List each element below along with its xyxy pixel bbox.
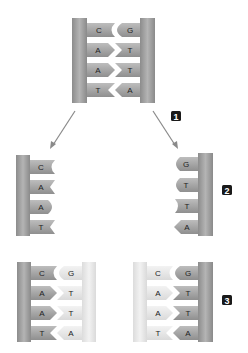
- separated-left-strand: C A A T: [16, 155, 55, 236]
- base-letter: A: [95, 46, 101, 55]
- separated-right-strand: G T T A: [174, 153, 213, 236]
- daughter-right-old-backbone: [198, 262, 213, 342]
- base-letter: G: [183, 160, 189, 169]
- daughter-left-new-backbone: [82, 262, 96, 342]
- svg-text:2: 2: [224, 186, 229, 196]
- base-letter: T: [69, 309, 74, 318]
- base-letter: A: [127, 86, 133, 95]
- base-letter: T: [39, 223, 44, 232]
- base-letter: C: [155, 269, 161, 278]
- base-letter: T: [156, 329, 161, 338]
- base-letter: A: [38, 203, 44, 212]
- daughter-left-old-backbone: [17, 262, 31, 342]
- base-letter: C: [39, 269, 45, 278]
- step-label-1: 1: [171, 111, 181, 122]
- daughter-dna-left: C A A T G T T A: [17, 262, 96, 342]
- dna-replication-diagram: C G A T A T T A 1 C A A T: [0, 0, 248, 353]
- base-A: [87, 43, 115, 57]
- separation-arrows: [50, 111, 178, 149]
- base-letter: T: [96, 86, 101, 95]
- base-letter: T: [128, 66, 133, 75]
- base-letter: T: [69, 289, 74, 298]
- svg-text:1: 1: [173, 112, 178, 122]
- base-letter: A: [38, 183, 44, 192]
- daughter-dna-right: C A A T G T T A: [133, 262, 213, 342]
- separated-left-backbone: [16, 155, 30, 236]
- step-label-2: 2: [222, 185, 232, 196]
- parent-left-backbone: [72, 18, 87, 103]
- base-letter: A: [39, 289, 45, 298]
- base-letter: T: [128, 46, 133, 55]
- base-letter: A: [39, 309, 45, 318]
- base-letter: T: [186, 309, 191, 318]
- parent-dna: C G A T A T T A: [72, 18, 155, 103]
- base-T: [87, 83, 115, 97]
- separated-right-backbone: [198, 153, 213, 236]
- base-letter: C: [96, 26, 102, 35]
- base-letter: T: [186, 289, 191, 298]
- base-letter: T: [185, 202, 190, 211]
- base-A: [87, 63, 115, 77]
- base-letter: A: [155, 309, 161, 318]
- base-letter: A: [185, 329, 191, 338]
- base-letter: A: [68, 329, 74, 338]
- parent-right-backbone: [140, 18, 155, 103]
- base-letter: G: [185, 269, 191, 278]
- base-letter: A: [95, 66, 101, 75]
- daughter-right-new-backbone: [133, 262, 147, 342]
- step-label-3: 3: [222, 295, 232, 306]
- base-letter: C: [38, 163, 44, 172]
- base-letter: T: [184, 181, 189, 190]
- base-letter: A: [184, 223, 190, 232]
- base-letter: T: [40, 329, 45, 338]
- base-letter: G: [127, 26, 133, 35]
- svg-text:3: 3: [224, 296, 229, 306]
- arrow-left: [53, 111, 75, 145]
- base-letter: G: [68, 269, 74, 278]
- base-letter: A: [155, 289, 161, 298]
